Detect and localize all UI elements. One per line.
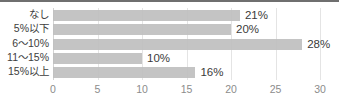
bar-row: 10% bbox=[53, 53, 320, 64]
bar-chart: なし5%以下6〜10%11〜15%15%以上 21%20%28%10%16% 0… bbox=[0, 0, 339, 101]
category-axis-labels: なし5%以下6〜10%11〜15%15%以上 bbox=[0, 8, 51, 80]
x-tick-label: 10 bbox=[136, 82, 148, 96]
category-label: 6〜10% bbox=[0, 38, 49, 49]
plot-area: 21%20%28%10%16% bbox=[53, 8, 320, 80]
bar-row: 16% bbox=[53, 67, 320, 78]
x-tick-label: 15 bbox=[181, 82, 193, 96]
category-label: なし bbox=[0, 9, 49, 20]
bar-value-label: 28% bbox=[307, 37, 330, 51]
category-label: 5%以下 bbox=[0, 23, 49, 34]
x-axis-tick-labels: 051015202530 bbox=[53, 82, 320, 98]
bar-row: 21% bbox=[53, 10, 320, 21]
x-tick-label: 5 bbox=[95, 82, 101, 96]
chart-top-border bbox=[0, 0, 339, 2]
x-tick-label: 20 bbox=[225, 82, 237, 96]
bar-value-label: 20% bbox=[236, 22, 259, 36]
bar bbox=[53, 67, 195, 78]
bar-row: 20% bbox=[53, 24, 320, 35]
bar-row: 28% bbox=[53, 39, 320, 50]
x-tick-label: 25 bbox=[270, 82, 282, 96]
category-label: 11〜15% bbox=[0, 52, 49, 63]
bar-value-label: 16% bbox=[200, 65, 223, 79]
bar bbox=[53, 10, 240, 21]
bar-value-label: 21% bbox=[245, 8, 268, 22]
bar-value-label: 10% bbox=[147, 51, 170, 65]
bar bbox=[53, 24, 231, 35]
bar bbox=[53, 53, 142, 64]
x-tick-label: 30 bbox=[314, 82, 326, 96]
x-tick-label: 0 bbox=[50, 82, 56, 96]
bar bbox=[53, 39, 302, 50]
category-label: 15%以上 bbox=[0, 66, 49, 77]
